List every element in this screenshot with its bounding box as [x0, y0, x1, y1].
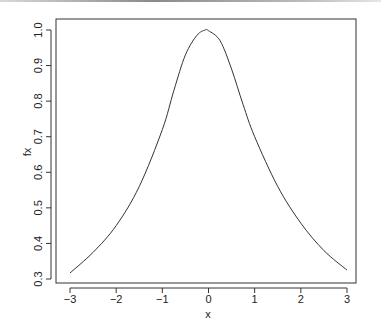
y-tick-label: 0.8: [32, 93, 44, 108]
x-tick-label: −2: [110, 293, 123, 305]
y-tick-label: 0.7: [32, 129, 44, 144]
y-tick-label: 0.6: [32, 165, 44, 180]
x-tick-label: −3: [64, 293, 77, 305]
x-axis-title: x: [205, 308, 211, 320]
x-tick-label: 2: [298, 293, 304, 305]
data-line: [70, 29, 347, 273]
x-tick-label: −1: [156, 293, 169, 305]
x-axis: −3−2−10123: [64, 288, 350, 305]
x-tick-label: 1: [252, 293, 258, 305]
x-tick-label: 0: [205, 293, 211, 305]
x-tick-label: 3: [344, 293, 350, 305]
y-tick-label: 0.3: [32, 271, 44, 286]
y-tick-label: 0.4: [32, 236, 44, 251]
line-chart: −3−2−10123 0.30.40.50.60.70.80.91.0 x fx: [0, 0, 381, 335]
y-tick-label: 0.5: [32, 200, 44, 215]
y-tick-label: 1.0: [32, 22, 44, 37]
y-axis: 0.30.40.50.60.70.80.91.0: [32, 22, 51, 286]
y-tick-label: 0.9: [32, 58, 44, 73]
y-axis-title: fx: [21, 147, 33, 156]
